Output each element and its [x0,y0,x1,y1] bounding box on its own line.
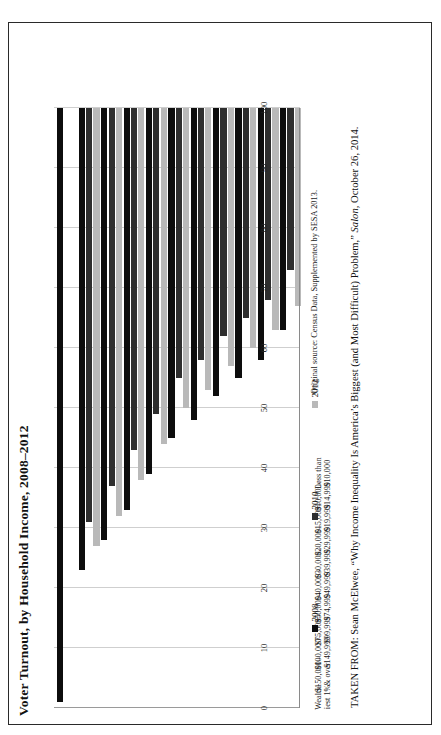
bar [250,108,256,348]
bar [131,108,137,450]
bar [138,108,144,480]
bar [243,108,249,318]
bar [116,108,122,516]
bar [57,108,63,702]
bar [235,108,241,378]
axis-tick-label: 0 [259,705,269,709]
chart-title: Voter Turnout, by Household Income, 2008… [16,425,32,716]
bar [79,108,85,570]
attribution-part-2: October 26, 2014. [349,126,360,203]
attribution-publication: Salon, [349,205,360,232]
axis-tick-label: 40 [259,463,269,472]
bar [124,108,130,510]
axis-tick-label: 90 [259,163,269,172]
bar [198,108,204,360]
bar [93,108,99,546]
bar [146,108,152,474]
axis-tick-label: 60 [259,343,269,352]
bar [183,108,189,408]
axis-tick-label: 80 [259,223,269,232]
legend-item-2008: 2008 [310,603,320,632]
category-label-line: iest 1% [323,683,332,709]
legend-label: 2008 [310,603,320,621]
bar [109,108,115,486]
legend-swatch-icon [312,513,319,520]
axis-tick-label: 100 [259,101,269,114]
bar [280,108,286,330]
axis-tick-label: 30 [259,523,269,532]
legend-swatch-icon [312,625,319,632]
attribution-text: TAKEN FROM: Sean McElwee, “Why Income In… [348,108,362,708]
bar [161,108,167,444]
bar [213,108,219,396]
legend-item-2010: 2010 [310,491,320,520]
bar [287,108,293,270]
bar [176,108,182,378]
bar [153,108,159,414]
bar [86,108,92,522]
bar [228,108,234,366]
legend-label: 2010 [310,491,320,509]
bar [265,108,271,300]
bar [258,108,264,360]
axis-tick-label: 10 [259,643,269,652]
bar [191,108,197,420]
attribution-part-1: TAKEN FROM: Sean McElwee, “Why Income In… [349,232,360,708]
bar [168,108,174,438]
axis-tick-label: 50 [259,403,269,412]
axis-tick-label: 70 [259,283,269,292]
figure-border-box: Voter Turnout, by Household Income, 2008… [8,22,432,725]
axis-tick-label: 20 [259,583,269,592]
bar [205,108,211,390]
category-label-line: Wealth- [314,683,323,709]
bar [220,108,226,336]
rotated-figure-content: Voter Turnout, by Household Income, 2008… [10,24,430,724]
source-note: Original source: Census Data, Supplement… [310,189,319,393]
legend-swatch-icon [312,401,319,408]
category-label: Wealth-iest 1% [314,683,333,709]
bar [101,108,107,540]
value-axis-line [299,108,300,708]
bar [272,108,278,330]
